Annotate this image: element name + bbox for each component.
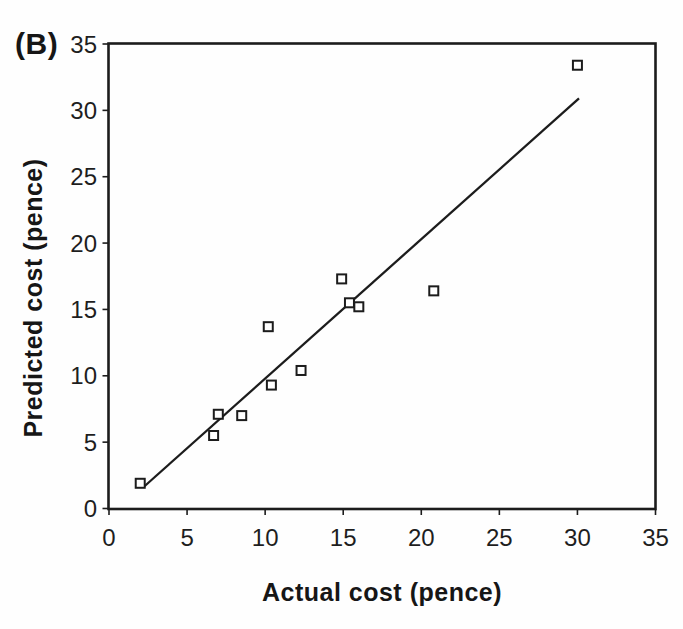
data-point-marker — [264, 322, 273, 331]
x-axis-ticks — [109, 510, 656, 516]
x-tick-label: 10 — [252, 524, 279, 551]
data-point-marker — [297, 366, 306, 375]
scatter-figure: (B) 05101520253035 05101520253035 Actual… — [0, 0, 683, 629]
chart-canvas: 05101520253035 05101520253035 Actual cos… — [0, 0, 683, 629]
x-tick-label: 20 — [408, 524, 435, 551]
y-tick-label: 20 — [70, 230, 97, 257]
data-point-marker — [345, 298, 354, 307]
y-tick-label: 15 — [70, 296, 97, 323]
data-point-marker — [214, 410, 223, 419]
y-tick-label: 0 — [84, 495, 97, 522]
x-tick-label: 30 — [564, 524, 591, 551]
data-point-marker — [209, 431, 218, 440]
data-point-marker — [267, 381, 276, 390]
x-axis-tick-labels: 05101520253035 — [102, 524, 669, 551]
data-point-marker — [237, 411, 246, 420]
data-point-marker — [337, 274, 346, 283]
y-tick-label: 10 — [70, 362, 97, 389]
y-tick-label: 35 — [70, 31, 97, 58]
plot-area — [109, 44, 656, 510]
y-axis-ticks — [103, 44, 109, 509]
y-axis-title: Predicted cost (pence) — [19, 158, 47, 437]
x-tick-label: 35 — [642, 524, 669, 551]
data-point-marker — [429, 286, 438, 295]
x-tick-label: 0 — [102, 524, 115, 551]
x-axis-title: Actual cost (pence) — [262, 578, 502, 606]
y-tick-label: 30 — [70, 97, 97, 124]
y-axis-tick-labels: 05101520253035 — [70, 31, 97, 523]
data-point-marker — [136, 479, 145, 488]
data-point-marker — [354, 302, 363, 311]
x-tick-label: 15 — [330, 524, 357, 551]
y-tick-label: 5 — [84, 429, 97, 456]
y-tick-label: 25 — [70, 163, 97, 190]
x-tick-label: 5 — [180, 524, 193, 551]
x-tick-label: 25 — [486, 524, 513, 551]
data-point-marker — [573, 61, 582, 70]
